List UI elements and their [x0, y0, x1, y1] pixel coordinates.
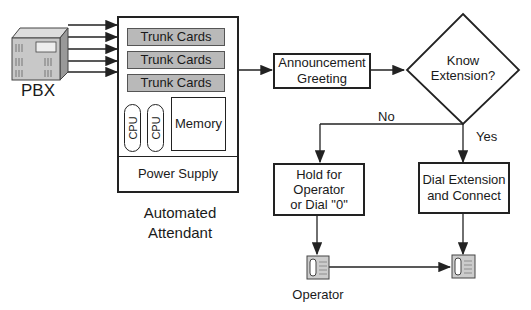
dial-extension-box: Dial Extension and Connect: [418, 162, 510, 214]
announcement-greeting-box: Announcement Greeting: [273, 53, 371, 89]
hold-for-operator-box: Hold for Operator or Dial "0": [273, 163, 365, 216]
decision-label: Know Extension?: [423, 53, 503, 83]
trunk-card: Trunk Cards: [127, 74, 225, 92]
trunk-card: Trunk Cards: [127, 28, 225, 46]
pbx-label: PBX: [8, 82, 68, 100]
telephone-icon: [307, 256, 329, 279]
cpu-unit: CPU: [124, 104, 141, 152]
power-supply-box: Power Supply: [117, 156, 239, 193]
memory-box: Memory: [171, 97, 226, 151]
branch-yes-label: Yes: [476, 128, 497, 146]
pbx-cabinet-icon: [12, 28, 68, 80]
branch-no-label: No: [378, 108, 395, 126]
cpu-unit: CPU: [147, 104, 164, 152]
telephone-icon: [452, 255, 475, 278]
automated-attendant-label: Automated Attendant: [125, 203, 235, 243]
connector-lines: [0, 0, 531, 310]
trunk-card: Trunk Cards: [127, 51, 225, 69]
operator-label: Operator: [290, 286, 346, 304]
